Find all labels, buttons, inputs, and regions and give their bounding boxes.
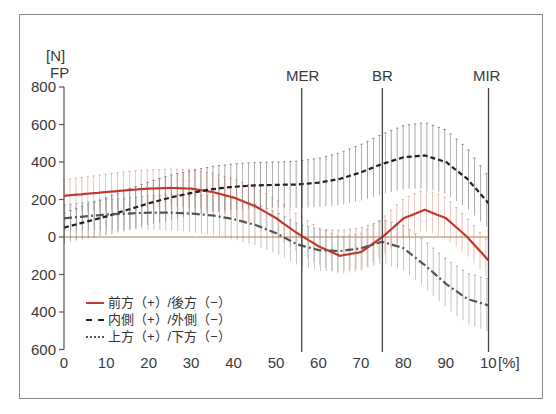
y-axis-unit: [N] <box>46 48 65 63</box>
x-tick-label: 80 <box>395 355 412 370</box>
legend-label: 上方（+）/下方（−） <box>108 328 231 345</box>
solid-line-swatch <box>86 302 104 304</box>
legend-item: 前方（+）/後方（−） <box>86 294 231 311</box>
legend-label: 前方（+）/後方（−） <box>108 294 231 311</box>
y-tick-label: 200 <box>16 192 56 207</box>
x-tick-label: 10 <box>480 355 497 370</box>
x-tick-label: 40 <box>225 355 242 370</box>
series-line <box>64 213 489 306</box>
dashed-line-swatch <box>86 319 104 321</box>
x-tick-label: 70 <box>353 355 370 370</box>
x-tick-label: 30 <box>183 355 200 370</box>
series-line <box>64 155 489 227</box>
x-tick-label: 20 <box>140 355 157 370</box>
event-label: BR <box>372 68 393 83</box>
y-tick-label: 0 <box>16 229 56 244</box>
x-tick-label: 10 <box>98 355 115 370</box>
y-tick-label: 800 <box>16 79 56 94</box>
y-tick-label: 600 <box>16 342 56 357</box>
chart-plot <box>0 0 556 414</box>
x-tick-label: 90 <box>437 355 454 370</box>
y-tick-label: 400 <box>16 304 56 319</box>
dashdot-line-swatch <box>86 336 104 338</box>
x-axis-unit: [%] <box>498 355 520 370</box>
event-label: MIR <box>473 68 501 83</box>
x-tick-label: 60 <box>310 355 327 370</box>
x-tick-label: 0 <box>60 355 68 370</box>
y-tick-label: 400 <box>16 154 56 169</box>
legend-item: 内側（+）/外側（−） <box>86 311 231 328</box>
legend-item: 上方（+）/下方（−） <box>86 328 231 345</box>
x-tick-label: 50 <box>268 355 285 370</box>
legend: 前方（+）/後方（−） 内側（+）/外側（−） 上方（+）/下方（−） <box>86 294 231 345</box>
legend-label: 内側（+）/外側（−） <box>108 311 231 328</box>
event-label: MER <box>286 68 319 83</box>
series-line <box>64 188 489 261</box>
y-tick-label: 200 <box>16 267 56 282</box>
y-tick-label: 600 <box>16 117 56 132</box>
